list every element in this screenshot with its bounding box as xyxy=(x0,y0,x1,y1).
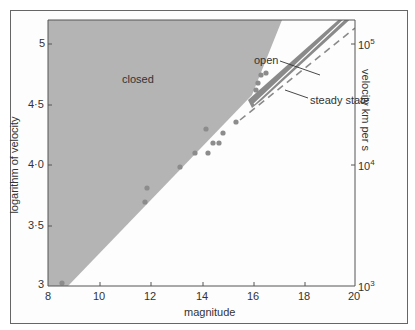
x-tick-label: 18 xyxy=(298,290,310,302)
closed-region xyxy=(48,20,282,286)
y-axis-title-right: velocity km per s xyxy=(360,69,372,151)
x-tick-label: 8 xyxy=(45,290,51,302)
y-axis-title-left: logarithm of velocity xyxy=(8,116,20,213)
x-tick-label: 14 xyxy=(196,290,208,302)
chart-canvas xyxy=(0,0,415,330)
closed-label: closed xyxy=(122,73,154,85)
x-axis-title: magnitude xyxy=(184,306,235,318)
right-tick-label: 103 xyxy=(358,279,375,293)
y-tick-label: 4·5 xyxy=(28,98,44,110)
steady-state-leader-line xyxy=(285,90,308,98)
x-tick-label: 12 xyxy=(144,290,156,302)
x-tick-label: 10 xyxy=(93,290,105,302)
right-tick-label: 105 xyxy=(358,37,375,51)
y-tick-label: 3 xyxy=(38,278,44,290)
y-tick-label: 3·5 xyxy=(28,219,44,231)
y-tick-label: 5 xyxy=(39,37,45,49)
y-tick-label: 4·0 xyxy=(28,158,44,170)
x-tick-label: 16 xyxy=(247,290,259,302)
right-tick-label: 104 xyxy=(358,158,375,172)
open-label: open xyxy=(254,54,278,66)
